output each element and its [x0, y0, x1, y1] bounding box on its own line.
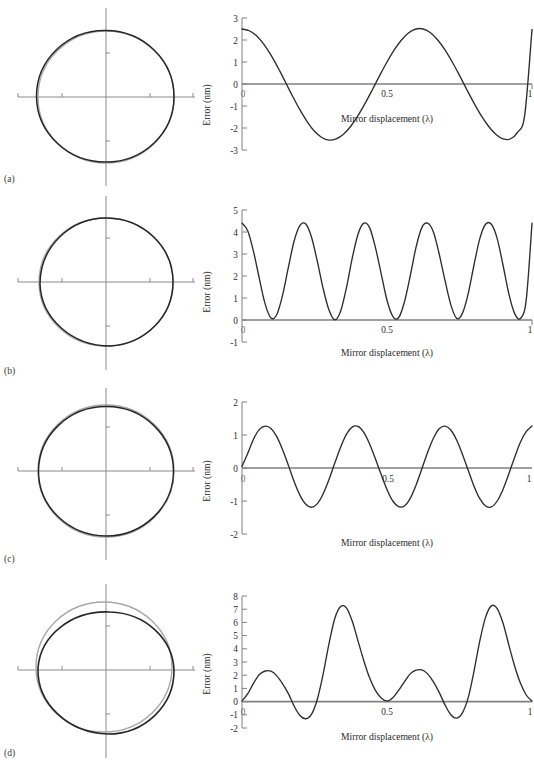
lissajous-plot-b	[10, 194, 215, 388]
x-axis-title-b: Mirror displacement (λ)	[341, 347, 433, 359]
error-curve-b	[242, 223, 532, 320]
svg-text:1: 1	[528, 707, 533, 717]
svg-text:-2: -2	[230, 724, 238, 734]
svg-text:0: 0	[241, 325, 246, 335]
error-plot-d: Error (nm) 8 7	[196, 582, 534, 774]
error-chart-svg-a: Error (nm) 3 2 1 0 -1 -2	[196, 0, 534, 194]
svg-text:0.5: 0.5	[381, 89, 393, 99]
svg-text:-2: -2	[230, 124, 238, 134]
svg-text:7: 7	[233, 605, 238, 615]
lissajous-plot-d	[10, 582, 215, 774]
svg-text:-1: -1	[230, 102, 238, 112]
svg-text:2: 2	[233, 671, 238, 681]
svg-text:0: 0	[241, 89, 246, 99]
svg-text:1: 1	[527, 474, 532, 484]
svg-text:0: 0	[241, 707, 246, 717]
svg-text:1: 1	[528, 325, 533, 335]
lissajous-axes-a	[18, 8, 195, 186]
lissajous-svg-c	[10, 388, 215, 582]
error-plot-a: Error (nm) 3 2 1 0 -1 -2	[196, 0, 534, 194]
svg-text:5: 5	[233, 631, 238, 641]
svg-text:2: 2	[233, 36, 238, 46]
svg-text:2: 2	[233, 398, 238, 408]
y-tick-labels-a: 3 2 1 0 -1 -2 -3	[230, 14, 238, 156]
error-plot-b: Error (nm) 5 4 3 2 1 0	[196, 194, 534, 388]
svg-text:8: 8	[233, 592, 238, 602]
lissajous-axes-c	[18, 388, 195, 560]
error-plot-c: Error (nm) 2 1 0 -1 -2	[196, 388, 534, 582]
y-axis-title-d: Error (nm)	[201, 653, 213, 694]
panel-b: (b) Error (nm)	[0, 194, 534, 388]
x-tick-labels-d: 0 0.5 1	[241, 707, 533, 717]
svg-text:-3: -3	[230, 146, 238, 156]
svg-text:1: 1	[528, 89, 533, 99]
y-axis-title-c: Error (nm)	[201, 460, 213, 501]
error-chart-svg-d: Error (nm) 8 7	[196, 582, 534, 774]
error-chart-svg-b: Error (nm) 5 4 3 2 1 0	[196, 194, 534, 388]
svg-text:6: 6	[233, 618, 238, 628]
x-axis-title-c: Mirror displacement (λ)	[341, 537, 433, 549]
lissajous-axes-b	[18, 196, 195, 370]
svg-text:1: 1	[233, 58, 238, 68]
svg-text:0.5: 0.5	[381, 325, 393, 335]
svg-text:1: 1	[233, 431, 238, 441]
error-curve-c	[242, 426, 532, 507]
svg-text:0.5: 0.5	[381, 707, 393, 717]
svg-text:0: 0	[241, 474, 246, 484]
svg-text:5: 5	[233, 206, 238, 216]
y-tick-labels-b: 5 4 3 2 1 0 -1	[230, 206, 238, 348]
svg-text:0: 0	[233, 464, 238, 474]
svg-text:4: 4	[233, 644, 238, 654]
x-tick-labels-b: 0 0.5 1	[241, 325, 533, 335]
y-axis-line-b	[242, 210, 247, 342]
error-chart-svg-c: Error (nm) 2 1 0 -1 -2	[196, 388, 534, 582]
panel-c: (c) Error (nm)	[0, 388, 534, 582]
svg-text:0: 0	[233, 697, 238, 707]
y-axis-title-a: Error (nm)	[201, 84, 213, 125]
svg-text:0: 0	[233, 316, 238, 326]
y-tick-labels-d: 8 7 6 5 4 3 2 1 0 -1 -2	[230, 592, 238, 734]
x-axis-title-a: Mirror displacement (λ)	[341, 113, 433, 125]
figure-root: (a) Error (nm)	[0, 0, 534, 774]
svg-text:3: 3	[233, 658, 238, 668]
panel-a: (a) Error (nm)	[0, 0, 534, 194]
x-tick-labels-c: 0 0.5 1	[241, 474, 532, 484]
svg-text:4: 4	[233, 228, 238, 238]
lissajous-plot-c	[10, 388, 215, 582]
svg-text:-1: -1	[230, 338, 238, 348]
lissajous-svg-a	[10, 0, 215, 194]
svg-text:2: 2	[233, 272, 238, 282]
x-axis-title-d: Mirror displacement (λ)	[341, 731, 433, 743]
lissajous-plot-a	[10, 0, 215, 194]
panel-d: (d) Error (nm)	[0, 582, 534, 774]
svg-text:3: 3	[233, 250, 238, 260]
svg-text:0: 0	[233, 80, 238, 90]
svg-text:-1: -1	[230, 710, 238, 720]
svg-text:-1: -1	[230, 497, 238, 507]
x-tick-labels-a: 0 0.5 1	[241, 89, 533, 99]
svg-text:1: 1	[233, 684, 238, 694]
y-axis-title-b: Error (nm)	[201, 271, 213, 312]
svg-text:3: 3	[233, 14, 238, 24]
y-tick-labels-c: 2 1 0 -1 -2	[230, 398, 238, 540]
lissajous-svg-b	[10, 194, 215, 388]
svg-text:-2: -2	[230, 530, 238, 540]
lissajous-svg-d	[10, 582, 215, 774]
svg-text:1: 1	[233, 294, 238, 304]
